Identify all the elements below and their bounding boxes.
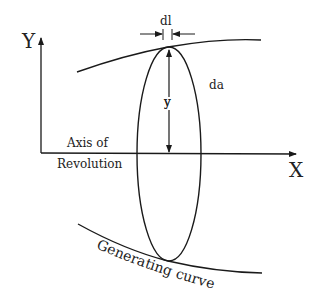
axis-of-revolution-line2: Revolution	[57, 157, 123, 171]
dl-label: dl	[160, 14, 172, 28]
x-axis-label: X	[289, 158, 304, 182]
x-axis	[41, 153, 296, 154]
generating-curve-label-path: Generating curve	[95, 236, 217, 292]
y-axis-label: Y	[21, 29, 36, 53]
da-label: da	[209, 78, 224, 92]
surface-of-revolution-diagram: Y X dl da y y Axis of Revolution Generat…	[0, 0, 318, 298]
axis-of-revolution-line1: Axis of	[66, 136, 109, 150]
y-label-text: y	[163, 95, 171, 109]
generating-curve-label: Generating curve	[95, 236, 217, 292]
